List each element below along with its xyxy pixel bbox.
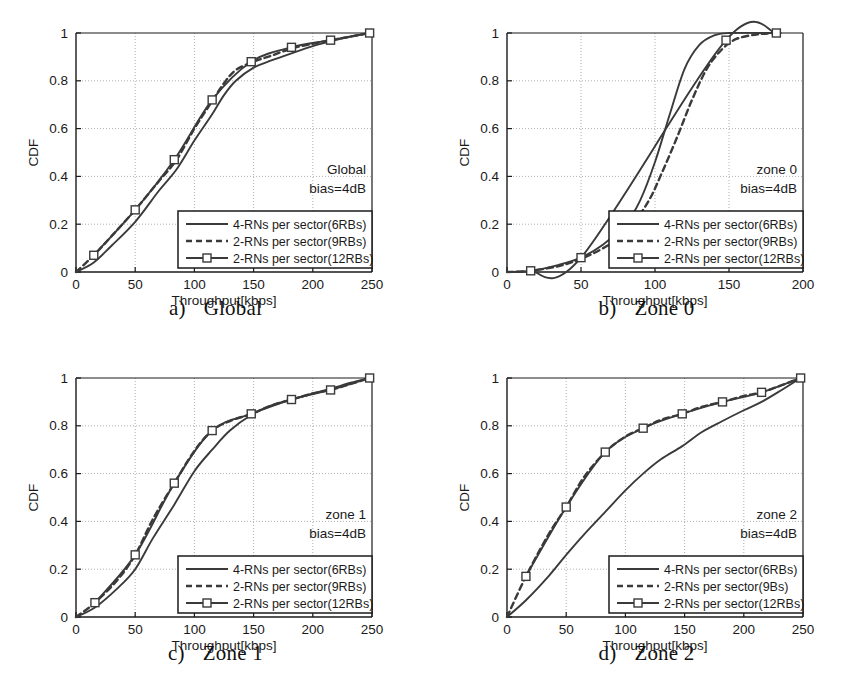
data-marker bbox=[722, 36, 730, 44]
y-tick-label: 1 bbox=[60, 371, 68, 386]
caption-index-b: b) bbox=[598, 296, 616, 320]
legend-label-3: 2-RNs per sector(12RBs) bbox=[233, 252, 373, 266]
y-tick-label: 0.6 bbox=[49, 121, 68, 136]
data-marker bbox=[366, 29, 374, 37]
chart-panel-b: 00.20.40.60.81050100150200Throughput[kbp… bbox=[431, 0, 862, 345]
x-tick-label: 0 bbox=[72, 622, 80, 637]
data-marker bbox=[797, 374, 805, 382]
panel-caption-c: c)Zone 1 bbox=[0, 641, 431, 666]
caption-text-a: Global bbox=[204, 296, 262, 320]
data-marker bbox=[287, 43, 295, 51]
caption-text-b: Zone 0 bbox=[634, 296, 694, 320]
x-tick-label: 0 bbox=[503, 277, 511, 292]
y-tick-label: 0 bbox=[491, 265, 499, 280]
x-tick-label: 250 bbox=[792, 622, 815, 637]
x-tick-label: 200 bbox=[302, 622, 325, 637]
caption-index-c: c) bbox=[168, 641, 185, 665]
data-marker bbox=[208, 96, 216, 104]
y-axis-title: CDF bbox=[26, 484, 41, 512]
y-tick-label: 0.2 bbox=[49, 217, 68, 232]
data-marker bbox=[170, 479, 178, 487]
chart-panel-a: 00.20.40.60.81050100150200250Throughput[… bbox=[0, 0, 431, 345]
x-tick-label: 0 bbox=[72, 277, 80, 292]
data-marker bbox=[758, 388, 766, 396]
x-tick-label: 0 bbox=[503, 622, 511, 637]
y-axis-title: CDF bbox=[457, 139, 472, 167]
y-tick-label: 0.2 bbox=[49, 562, 68, 577]
data-marker bbox=[327, 36, 335, 44]
data-marker bbox=[639, 424, 647, 432]
y-axis-title: CDF bbox=[26, 139, 41, 167]
legend-marker bbox=[203, 254, 211, 262]
legend-marker bbox=[634, 599, 642, 607]
chart-svg-a: 00.20.40.60.81050100150200250Throughput[… bbox=[0, 0, 431, 345]
data-marker bbox=[772, 29, 780, 37]
x-tick-label: 100 bbox=[614, 622, 637, 637]
x-tick-label: 200 bbox=[302, 277, 325, 292]
x-tick-label: 50 bbox=[128, 277, 143, 292]
y-tick-label: 0.2 bbox=[480, 217, 499, 232]
y-tick-label: 0 bbox=[60, 610, 68, 625]
figure-container: 00.20.40.60.81050100150200250Throughput[… bbox=[0, 0, 862, 690]
legend-label-2: 2-RNs per sector(9RBs) bbox=[664, 235, 797, 249]
data-marker bbox=[522, 572, 530, 580]
annotation-bias-label: bias=4dB bbox=[740, 181, 797, 196]
y-tick-label: 1 bbox=[491, 26, 499, 41]
y-tick-label: 0.4 bbox=[49, 514, 68, 529]
y-tick-label: 0.4 bbox=[49, 169, 68, 184]
y-tick-label: 0 bbox=[60, 265, 68, 280]
legend-label-1: 4-RNs per sector(6RBs) bbox=[664, 218, 797, 232]
chart-legend: 4-RNs per sector(6RBs)2-RNs per sector(9… bbox=[609, 556, 804, 613]
annotation-bias-label: bias=4dB bbox=[740, 526, 797, 541]
x-tick-label: 50 bbox=[573, 277, 588, 292]
caption-index-d: d) bbox=[598, 641, 616, 665]
data-marker bbox=[601, 448, 609, 456]
x-tick-label: 150 bbox=[242, 622, 265, 637]
plot-annotation: Globalbias=4dB bbox=[309, 162, 366, 196]
y-axis-title: CDF bbox=[457, 484, 472, 512]
chart-legend: 4-RNs per sector(6RBs)2-RNs per sector(9… bbox=[178, 556, 373, 613]
y-tick-label: 0.8 bbox=[480, 418, 499, 433]
caption-index-a: a) bbox=[169, 296, 186, 320]
legend-label-2: 2-RNs per sector(9Bs) bbox=[664, 580, 788, 594]
legend-label-2: 2-RNs per sector(9RBs) bbox=[233, 580, 366, 594]
y-tick-label: 1 bbox=[491, 371, 499, 386]
curve-series-3 bbox=[526, 378, 801, 576]
data-marker bbox=[247, 58, 255, 66]
annotation-zone-label: zone 1 bbox=[325, 507, 366, 522]
y-tick-label: 0.6 bbox=[49, 466, 68, 481]
data-marker bbox=[577, 254, 585, 262]
x-tick-label: 150 bbox=[718, 277, 741, 292]
y-tick-label: 0.4 bbox=[480, 169, 499, 184]
legend-label-3: 2-RNs per sector(12RBs) bbox=[664, 597, 804, 611]
x-tick-label: 250 bbox=[361, 277, 384, 292]
y-tick-label: 0.8 bbox=[49, 73, 68, 88]
annotation-zone-label: zone 2 bbox=[756, 507, 797, 522]
x-tick-label: 150 bbox=[242, 277, 265, 292]
chart-panel-c: 00.20.40.60.81050100150200250Throughput[… bbox=[0, 345, 431, 690]
x-tick-label: 250 bbox=[361, 622, 384, 637]
data-marker bbox=[91, 599, 99, 607]
x-tick-label: 200 bbox=[733, 622, 756, 637]
panel-caption-a: a)Global bbox=[0, 296, 431, 321]
legend-label-1: 4-RNs per sector(6RBs) bbox=[664, 563, 797, 577]
legend-label-3: 2-RNs per sector(12RBs) bbox=[664, 252, 804, 266]
legend-label-2: 2-RNs per sector(9RBs) bbox=[233, 235, 366, 249]
annotation-bias-label: bias=4dB bbox=[309, 181, 366, 196]
y-tick-label: 0.8 bbox=[480, 73, 499, 88]
y-tick-label: 1 bbox=[60, 26, 68, 41]
plot-annotation: zone 1bias=4dB bbox=[309, 507, 366, 541]
chart-svg-b: 00.20.40.60.81050100150200Throughput[kbp… bbox=[431, 0, 862, 345]
data-marker bbox=[131, 551, 139, 559]
plot-annotation: zone 0bias=4dB bbox=[740, 162, 797, 196]
data-marker bbox=[131, 206, 139, 214]
y-tick-label: 0.8 bbox=[49, 418, 68, 433]
y-tick-label: 0.6 bbox=[480, 466, 499, 481]
y-tick-label: 0 bbox=[491, 610, 499, 625]
y-tick-label: 0.6 bbox=[480, 121, 499, 136]
legend-label-1: 4-RNs per sector(6RBs) bbox=[233, 218, 366, 232]
annotation-bias-label: bias=4dB bbox=[309, 526, 366, 541]
data-marker bbox=[287, 396, 295, 404]
legend-label-3: 2-RNs per sector(12RBs) bbox=[233, 597, 373, 611]
x-tick-label: 150 bbox=[673, 622, 696, 637]
